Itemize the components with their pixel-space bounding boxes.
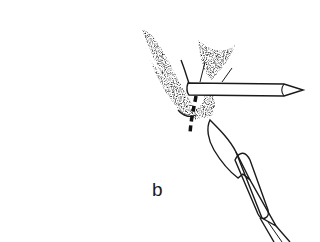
surgical-illustration bbox=[0, 0, 320, 242]
tissue-shading bbox=[142, 30, 235, 120]
panel-label: b bbox=[152, 180, 163, 199]
scalpel bbox=[208, 120, 290, 242]
probe-needle bbox=[187, 83, 303, 96]
figure-canvas: b bbox=[0, 0, 320, 242]
